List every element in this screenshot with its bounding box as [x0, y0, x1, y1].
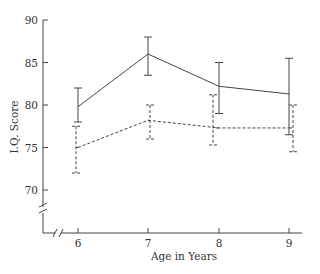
x-tick-label: 8: [216, 237, 223, 249]
series-layer: [72, 37, 297, 173]
x-tick-label: 9: [286, 237, 293, 249]
y-axis-break-mark: [39, 209, 47, 213]
axes: 70758085906789: [25, 14, 302, 249]
x-tick-label: 7: [145, 237, 152, 249]
chart-container: 70758085906789 I.Q. Score Age in Years: [0, 0, 320, 274]
y-tick-label: 90: [25, 14, 38, 26]
y-axis-label: I.Q. Score: [8, 101, 20, 154]
series-dashed: [72, 95, 297, 173]
x-tick-label: 6: [75, 237, 82, 249]
x-axis-label: Age in Years: [150, 250, 217, 262]
y-tick-label: 70: [25, 184, 38, 196]
series-solid: [74, 37, 293, 135]
series-line: [78, 120, 289, 147]
line-chart: 70758085906789 I.Q. Score Age in Years: [0, 0, 320, 274]
series-line: [78, 54, 289, 107]
y-tick-label: 85: [25, 57, 38, 69]
y-tick-label: 80: [25, 99, 38, 111]
y-tick-label: 75: [25, 142, 38, 154]
